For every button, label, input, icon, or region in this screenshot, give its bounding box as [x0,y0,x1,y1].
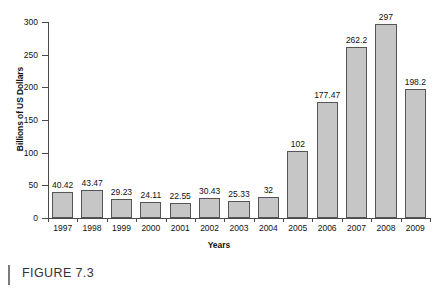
x-tick-mark [401,218,402,222]
bar-value-label: 297 [363,13,409,22]
bar-value-label: 262.2 [334,36,380,45]
x-axis-title: Years [0,240,438,250]
bar [317,102,338,218]
bar [375,24,396,218]
bar-chart: Billions of US Dollars 05010015020025030… [0,0,438,258]
x-tick-label: 2009 [395,224,435,233]
x-tick-mark [77,218,78,222]
bar [258,197,279,218]
x-tick-mark [430,218,431,222]
bar [405,89,426,218]
y-tick-label: 300 [0,18,38,27]
x-tick-mark [195,218,196,222]
x-tick-mark [342,218,343,222]
x-tick-mark [166,218,167,222]
x-tick-mark [224,218,225,222]
y-tick-mark [42,153,48,154]
bar [287,151,308,218]
x-tick-mark [254,218,255,222]
y-tick-label: 100 [0,149,38,158]
x-tick-mark [371,218,372,222]
y-tick-mark [42,22,48,23]
bar-value-label: 32 [245,186,291,195]
bar [346,47,367,218]
y-tick-mark [42,55,48,56]
bar [199,198,220,218]
figure: Billions of US Dollars 05010015020025030… [0,0,438,290]
bar-value-label: 102 [275,140,321,149]
caption-label: FIGURE 7.3 [22,266,94,280]
bar [140,202,161,218]
bar [170,203,191,218]
y-tick-label: 150 [0,116,38,125]
bar [52,192,73,218]
x-tick-mark [136,218,137,222]
bar-value-label: 177.47 [304,91,350,100]
x-tick-mark [312,218,313,222]
bar-value-label: 43.47 [69,179,115,188]
y-tick-label: 50 [0,181,38,190]
y-tick-mark [42,87,48,88]
x-axis-line [48,218,431,219]
y-tick-label: 0 [0,214,38,223]
x-tick-mark [107,218,108,222]
x-tick-mark [283,218,284,222]
figure-caption: FIGURE 7.3 [0,262,438,290]
y-tick-mark [42,120,48,121]
caption-rule-marker [8,265,10,285]
bar [228,201,249,218]
bar-value-label: 198.2 [392,78,438,87]
x-tick-mark [48,218,49,222]
y-tick-label: 250 [0,51,38,60]
y-tick-label: 200 [0,83,38,92]
bar [111,199,132,218]
